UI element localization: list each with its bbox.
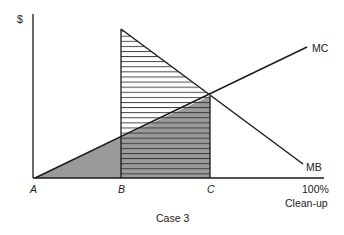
diagram-title: Case 3 xyxy=(156,212,189,224)
x-axis-label: Clean-up xyxy=(285,197,328,209)
point-b-label: B xyxy=(118,183,125,195)
point-a-label: A xyxy=(29,183,37,195)
x-axis-end-label: 100% xyxy=(302,183,329,195)
mc-label: MC xyxy=(312,42,329,54)
mb-label: MB xyxy=(306,161,322,173)
clean-up-diagram: $ MC MB A B C 100% Clean-up Case 3 xyxy=(0,0,344,235)
point-c-label: C xyxy=(207,183,215,195)
y-axis-label: $ xyxy=(17,13,23,25)
hatched-region xyxy=(121,29,210,178)
